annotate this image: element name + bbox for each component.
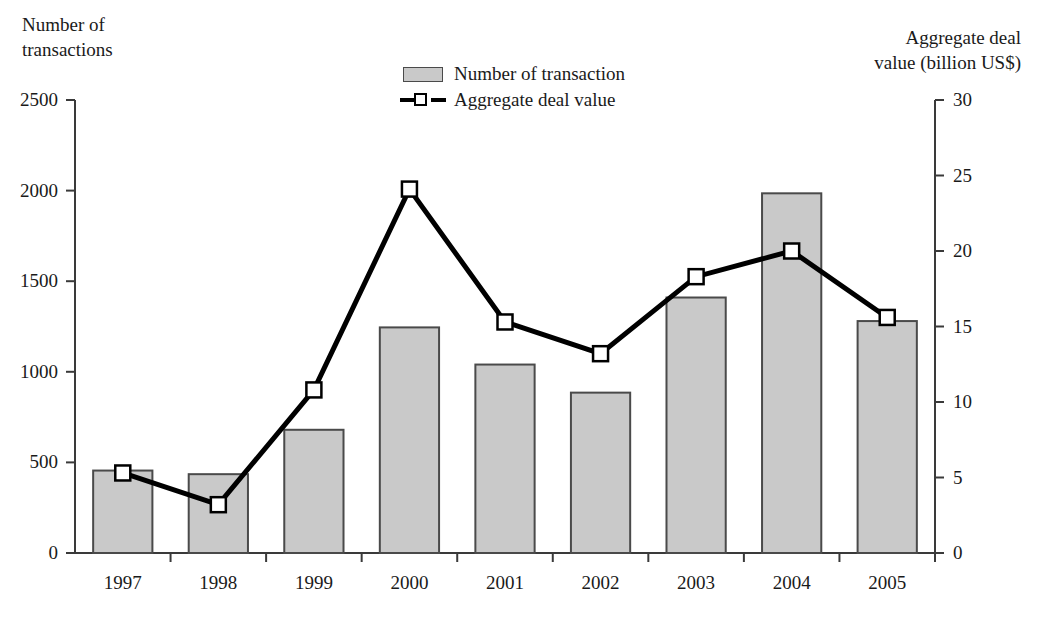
y-axis-tick-label: 500 (0, 452, 58, 471)
line-marker (689, 269, 704, 284)
y2-axis-tick-label: 25 (953, 166, 1023, 185)
bar (284, 430, 343, 553)
line-marker (784, 244, 799, 259)
line-marker (211, 497, 226, 512)
bar (858, 321, 917, 553)
y2-axis-tick-label: 20 (953, 241, 1023, 260)
line-marker (306, 382, 321, 397)
bar (475, 365, 534, 553)
y-axis-tick-label: 0 (0, 543, 58, 562)
x-axis-tick-label: 2002 (556, 573, 646, 592)
y-axis-tick-label: 2500 (0, 90, 58, 109)
y2-axis-tick-label: 30 (953, 90, 1023, 109)
bar (571, 393, 630, 553)
x-axis-tick-label: 2001 (460, 573, 550, 592)
line-marker (498, 314, 513, 329)
x-axis-tick-label: 1997 (78, 573, 168, 592)
bar (93, 471, 152, 553)
x-axis-tick-label: 1998 (173, 573, 263, 592)
chart-container: Number of transactions Aggregate deal va… (0, 0, 1039, 623)
bar (189, 474, 248, 553)
x-axis-tick-label: 2005 (842, 573, 932, 592)
x-axis-tick-label: 1999 (269, 573, 359, 592)
line-marker (115, 465, 130, 480)
y2-axis-tick-label: 5 (953, 468, 1023, 487)
bar (666, 298, 725, 553)
x-axis-tick-label: 2004 (747, 573, 837, 592)
y2-axis-tick-label: 15 (953, 317, 1023, 336)
x-axis-tick-label: 2003 (651, 573, 741, 592)
y2-axis-tick-label: 10 (953, 392, 1023, 411)
plot-area (0, 0, 1039, 623)
line-marker (402, 182, 417, 197)
y-axis-tick-label: 1000 (0, 362, 58, 381)
y-axis-tick-label: 1500 (0, 271, 58, 290)
x-axis-tick-label: 2000 (364, 573, 454, 592)
bar (380, 327, 439, 553)
line-marker (593, 346, 608, 361)
y2-axis-tick-label: 0 (953, 543, 1023, 562)
line-marker (880, 310, 895, 325)
y-axis-tick-label: 2000 (0, 181, 58, 200)
